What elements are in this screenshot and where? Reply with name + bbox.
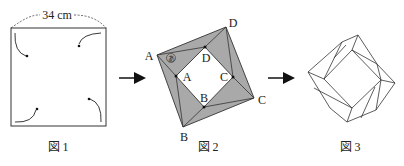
figure-2: あ A D C B A D C B 図 2 — [145, 16, 266, 154]
fold-arrow-top-left — [15, 33, 26, 56]
fold-dot — [78, 45, 81, 48]
flap-line — [352, 50, 377, 64]
outer-label-b: B — [180, 130, 188, 144]
figure-3 — [308, 35, 395, 122]
figure-1-caption: 図 1 — [48, 140, 69, 154]
fold-arrow-top-right — [79, 33, 101, 44]
point-dot — [232, 76, 235, 79]
fold-dot — [88, 98, 91, 101]
fold-arrow-bottom-left — [15, 110, 36, 122]
dimension-arc — [11, 15, 40, 28]
inner-label-b: B — [200, 91, 208, 105]
paper-square — [11, 28, 106, 126]
outer-label-d: D — [229, 16, 238, 30]
dimension-arc-right — [74, 15, 106, 28]
flap-line — [324, 42, 342, 79]
fold-dot — [26, 55, 29, 58]
inner-label-a: A — [183, 70, 192, 84]
flap-line — [314, 88, 352, 108]
origami-diagram: 34 cm 図 1 あ — [0, 0, 404, 166]
dimension-label: 34 cm — [42, 8, 72, 22]
inner-label-d: D — [202, 51, 211, 65]
fold-arrow-bottom-right — [90, 99, 101, 122]
point-dot — [175, 75, 178, 78]
point-dot — [203, 106, 206, 109]
figure-1: 34 cm 図 1 — [11, 8, 106, 154]
fold-dot — [36, 108, 39, 111]
angle-mark-label: あ — [168, 55, 175, 63]
outer-label-a: A — [145, 49, 154, 63]
inner-label-c: C — [220, 70, 228, 84]
point-dot — [204, 46, 207, 49]
inner-square — [324, 50, 381, 108]
figure-2-caption: 図 2 — [198, 140, 219, 154]
outer-label-c: C — [258, 93, 266, 107]
figure-3-caption: 図 3 — [340, 140, 361, 154]
